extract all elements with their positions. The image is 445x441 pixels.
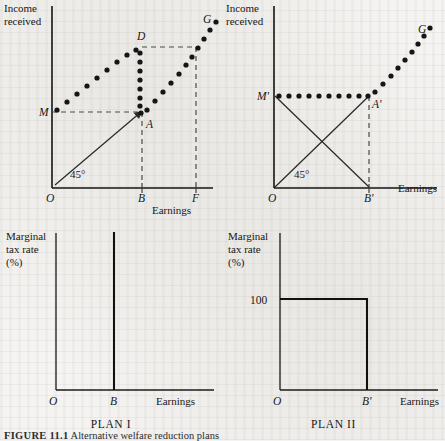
chart-plan-ii-budget: Income received — [222, 0, 445, 218]
chart-plan-i-mtr: Marginal tax rate (%) O B Earnings — [0, 218, 222, 418]
dotted-drop-d-to-a — [137, 50, 143, 115]
y-axis-label-line2: received — [226, 15, 264, 27]
x-axis-label: Earnings — [400, 395, 439, 407]
x-axis-label: Earnings — [156, 395, 195, 407]
x-axis-label: Earnings — [152, 204, 191, 216]
y-axis-label-line3: (%) — [6, 256, 23, 269]
threshold-label-b: B — [110, 395, 117, 407]
plan-i-title: PLAN I — [0, 418, 222, 430]
dotted-segment-a-to-g — [144, 19, 218, 112]
chart-plan-i-budget: Income received — [0, 0, 222, 218]
threshold-label-bprime: B' — [362, 395, 372, 407]
y-axis-label-line1: Income — [4, 2, 37, 14]
dotted-flat-benefit-line — [276, 93, 370, 98]
point-label-B: B — [138, 192, 145, 204]
point-label-O: O — [268, 192, 277, 204]
plan-ii-title: PLAN II — [222, 418, 445, 430]
forty-five-degree-line — [55, 112, 141, 185]
point-label-M: M — [38, 106, 50, 118]
point-label-G: G — [418, 23, 427, 35]
angle-label: 45° — [294, 168, 309, 180]
point-label-F: F — [191, 192, 200, 204]
point-label-Mprime: M' — [256, 90, 270, 102]
dotted-segment-m-to-d — [54, 47, 138, 112]
x-axis-label: Earnings — [398, 182, 437, 194]
figure-caption-label: FIGURE 11.1 — [4, 430, 69, 441]
figure-caption-text: Alternative welfare reduction plans — [71, 430, 219, 441]
y-axis-label-line1: Marginal — [6, 230, 46, 242]
dotted-segment-aprime-to-g — [372, 25, 432, 94]
point-label-G: G — [203, 13, 212, 25]
origin-label: O — [49, 395, 58, 407]
y-axis-label-line1: Marginal — [228, 230, 268, 242]
y-axis-label-line2: tax rate — [228, 243, 261, 255]
y-axis-label-line1: Income — [226, 2, 259, 14]
origin-label: O — [273, 395, 282, 407]
rate-value-label: 100 — [250, 294, 268, 306]
point-label-Aprime: A' — [371, 98, 382, 110]
panel-plan-i-budget: Income received — [0, 0, 222, 218]
angle-label: 45° — [70, 168, 85, 180]
panel-plan-ii-mtr: Marginal tax rate (%) 100 O B' Earnings — [222, 218, 445, 418]
chart-plan-ii-mtr: Marginal tax rate (%) 100 O B' Earnings — [222, 218, 445, 418]
panel-plan-i-mtr: Marginal tax rate (%) O B Earnings — [0, 218, 222, 418]
panel-plan-ii-budget: Income received — [222, 0, 445, 218]
y-axis-label-line3: (%) — [228, 256, 245, 269]
point-label-Bprime: B' — [364, 192, 374, 204]
figure-caption: FIGURE 11.1 Alternative welfare reductio… — [4, 430, 219, 441]
point-label-D: D — [136, 30, 146, 42]
y-axis-label-line2: tax rate — [6, 243, 39, 255]
mtr-step-100-to-bprime — [280, 299, 367, 390]
point-label-O: O — [46, 192, 55, 204]
point-label-A: A — [145, 118, 154, 130]
y-axis-label-line2: received — [4, 15, 42, 27]
